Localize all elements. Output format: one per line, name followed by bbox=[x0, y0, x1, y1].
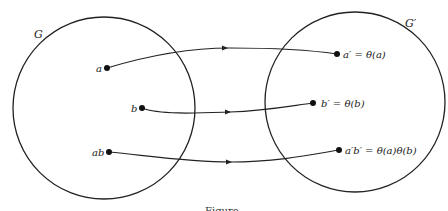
label-b-prime: b′ = θ(b) bbox=[321, 98, 365, 109]
point-ab-prime bbox=[336, 147, 342, 153]
point-a-prime bbox=[334, 51, 340, 57]
figure-caption: Figure bbox=[205, 205, 239, 211]
label-a: a bbox=[96, 63, 102, 74]
label-ab-prime: a′b′ = θ(a)θ(b) bbox=[345, 145, 417, 156]
set-G-label: G bbox=[34, 28, 43, 41]
mapping-arrow-ab bbox=[109, 150, 339, 162]
arrowhead-icon bbox=[226, 160, 232, 165]
mapping-arrow-a bbox=[107, 48, 337, 68]
set-G-circle bbox=[13, 17, 195, 199]
arrowhead-icon bbox=[222, 46, 228, 51]
point-b-prime bbox=[310, 100, 316, 106]
label-a-prime: a′ = θ(a) bbox=[343, 49, 386, 60]
arrowhead-icon bbox=[225, 110, 231, 115]
point-ab bbox=[106, 149, 112, 155]
homomorphism-diagram: G G′ a b ab a′ = θ(a) b′ = θ(b) a′b′ = θ… bbox=[0, 0, 448, 211]
label-ab: ab bbox=[92, 147, 104, 158]
label-b: b bbox=[131, 103, 137, 114]
set-G-prime-label: G′ bbox=[405, 17, 417, 30]
point-b bbox=[139, 105, 145, 111]
point-a bbox=[104, 65, 110, 71]
